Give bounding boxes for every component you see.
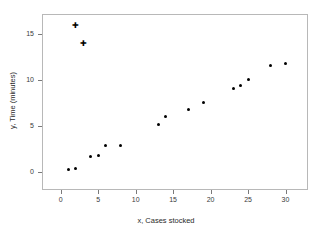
data-point	[284, 62, 287, 65]
data-point	[269, 64, 272, 67]
x-axis-tick	[173, 190, 174, 194]
x-axis-tick-label: 10	[124, 196, 148, 203]
x-axis-tick-label: 15	[161, 196, 185, 203]
y-axis-tick	[38, 172, 42, 173]
data-point	[187, 108, 190, 111]
data-point	[67, 168, 70, 171]
data-point	[72, 22, 79, 29]
x-axis-tick	[98, 190, 99, 194]
data-point	[119, 144, 122, 147]
x-axis-tick	[61, 190, 62, 194]
y-axis-title: y, Time (minutes)	[8, 41, 17, 161]
x-axis-tick-label: 25	[236, 196, 260, 203]
y-axis-tick-label: 15	[10, 30, 34, 37]
x-axis-tick-label: 5	[86, 196, 110, 203]
data-point	[247, 78, 250, 81]
plot-area	[42, 14, 308, 190]
data-point	[232, 87, 235, 90]
y-axis-tick	[38, 34, 42, 35]
x-axis-tick	[286, 190, 287, 194]
x-axis-tick	[136, 190, 137, 194]
data-point	[202, 101, 205, 104]
y-axis-tick	[38, 80, 42, 81]
data-point	[74, 167, 77, 170]
x-axis-tick	[211, 190, 212, 194]
x-axis-tick	[248, 190, 249, 194]
data-point	[164, 115, 167, 118]
x-axis-title: x, Cases stocked	[0, 216, 332, 225]
data-point	[239, 84, 242, 87]
data-point	[104, 144, 107, 147]
y-axis-tick-label: 0	[10, 168, 34, 175]
x-axis-tick-label: 20	[199, 196, 223, 203]
data-point	[97, 154, 100, 157]
data-point	[80, 40, 87, 47]
y-axis-tick	[38, 126, 42, 127]
scatter-chart: 051015202530051015 x, Cases stocked y, T…	[0, 0, 332, 239]
data-point	[157, 123, 160, 126]
x-axis-tick-label: 30	[274, 196, 298, 203]
data-point	[89, 155, 92, 158]
x-axis-tick-label: 0	[49, 196, 73, 203]
